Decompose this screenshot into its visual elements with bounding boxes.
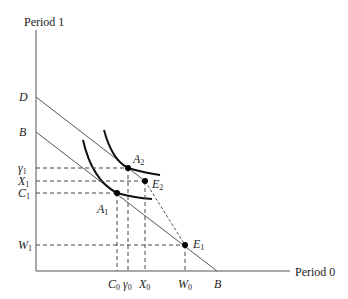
budget-line-b xyxy=(36,132,217,271)
x-tick-w0: W0 xyxy=(178,278,192,292)
point-a2 xyxy=(125,165,131,171)
label-a2: A2 xyxy=(133,153,144,167)
x-tick-c0: C0 xyxy=(108,278,120,292)
dashed-line-e2-e1 xyxy=(145,181,185,245)
x-tick-b: B xyxy=(214,278,221,290)
label-a1: A1 xyxy=(97,203,108,217)
diagram-canvas xyxy=(0,0,348,299)
point-a1 xyxy=(114,190,120,196)
x-tick-x0: X0 xyxy=(139,278,150,292)
y-tick-w1: W1 xyxy=(18,239,32,253)
label-e1: E1 xyxy=(193,238,204,252)
y-axis-label: Period 1 xyxy=(24,16,64,28)
point-e1 xyxy=(182,242,188,248)
indifference-curve-2 xyxy=(104,130,160,175)
x-tick-gamma0: γ0 xyxy=(123,278,132,292)
y-tick-c1: C1 xyxy=(18,187,30,201)
label-e2: E2 xyxy=(152,178,163,192)
y-tick-b: B xyxy=(19,126,26,138)
point-e2 xyxy=(142,178,148,184)
x-axis-label: Period 0 xyxy=(295,266,335,278)
y-tick-d: D xyxy=(19,91,28,103)
